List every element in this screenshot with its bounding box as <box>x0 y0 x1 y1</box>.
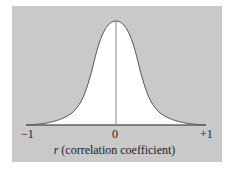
x-axis-description: (correlation coefficient) <box>58 143 175 157</box>
x-axis-title: r (correlation coefficient) <box>0 143 229 158</box>
tick-label-plus-one: +1 <box>200 128 213 140</box>
tick-label-minus-one: −1 <box>21 128 34 140</box>
tick-label-zero: 0 <box>112 128 118 140</box>
